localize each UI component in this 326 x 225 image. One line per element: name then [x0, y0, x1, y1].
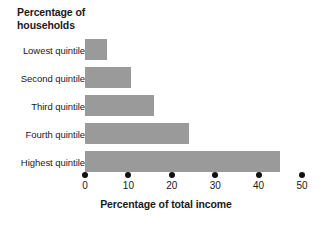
bar-row: Fourth quintile	[0, 123, 326, 144]
x-axis-tick-dot	[256, 172, 262, 178]
bar	[85, 95, 154, 116]
x-axis-tick-label: 10	[108, 180, 148, 192]
bar	[85, 39, 107, 60]
bar-row: Highest quintile	[0, 151, 326, 172]
bar	[85, 123, 189, 144]
x-axis-tick-dot	[299, 172, 305, 178]
x-axis-tick-dot	[125, 172, 131, 178]
bar-row: Third quintile	[0, 95, 326, 116]
bar-category-label: Highest quintile	[21, 156, 85, 167]
x-axis-tick-label: 30	[195, 180, 235, 192]
bar-category-label: Third quintile	[31, 100, 85, 111]
bar-category-label: Fourth quintile	[26, 128, 85, 139]
bar-row: Second quintile	[0, 67, 326, 88]
x-axis-tick-label: 50	[282, 180, 322, 192]
x-axis-tick-dot	[82, 172, 88, 178]
bar-row: Lowest quintile	[0, 39, 326, 60]
bar-category-label: Second quintile	[21, 72, 85, 83]
x-axis-tick-labels: 01020304050	[0, 180, 326, 194]
x-axis-tick-dot	[212, 172, 218, 178]
bar	[85, 151, 280, 172]
bar-category-label: Lowest quintile	[23, 44, 85, 55]
bar-chart-figure: Percentage of households Lowest quintile…	[0, 0, 326, 225]
bar	[85, 67, 131, 88]
x-axis-title: Percentage of total income	[46, 198, 286, 211]
x-axis-tick-label: 20	[152, 180, 192, 192]
x-axis-tick-label: 40	[239, 180, 279, 192]
x-axis-tick-dot	[169, 172, 175, 178]
x-axis-tick-label: 0	[65, 180, 105, 192]
